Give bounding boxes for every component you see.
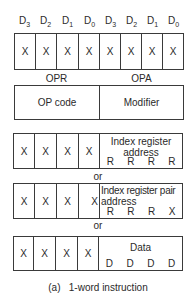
index-register-pair-format-box: X X X X Index register pair address R R … — [13, 183, 183, 219]
bit-cell: X — [14, 134, 35, 168]
bit-letter: R — [148, 206, 155, 217]
field-bits: R R R X — [100, 206, 182, 217]
bit-letter: R — [148, 156, 155, 167]
field-title: Data — [99, 242, 182, 254]
bit-label: D3 — [14, 15, 35, 28]
bit-letter: R — [127, 156, 134, 167]
bit-cell: X — [57, 134, 79, 168]
bit-letter: R — [107, 206, 114, 217]
bit-cell: X — [79, 34, 100, 69]
bit-cell: X — [100, 34, 121, 69]
bit-letter: R — [107, 156, 114, 167]
bit-cell: X — [14, 237, 34, 270]
bit-letter: D — [168, 258, 175, 269]
bit-cell: X — [142, 34, 163, 69]
bit-cell: X — [121, 34, 142, 69]
index-register-format-box: X X X X Index register address R R R R — [13, 133, 183, 169]
bit-cell: X — [15, 34, 36, 69]
figure-caption: (a) 1-word instruction — [13, 282, 183, 293]
modifier-field: Modifier — [100, 86, 183, 119]
field-bits: R R R R — [100, 156, 182, 167]
bit-letter: X — [169, 206, 176, 217]
index-register-pair-field: Index register pair address R R R X — [100, 184, 182, 218]
index-register-field: Index register address R R R R — [100, 134, 182, 168]
opr-label: OPR — [14, 73, 99, 84]
bit-cell: X — [35, 184, 57, 218]
bit-cell: X — [78, 237, 99, 270]
data-field: Data D D D D — [99, 237, 182, 270]
bit-cell: X — [36, 34, 57, 69]
bit-letter: R — [168, 156, 175, 167]
bit-cell: X — [14, 184, 35, 218]
bit-cell: X — [35, 134, 57, 168]
bit-label: D1 — [142, 15, 163, 28]
bit-letter: R — [127, 206, 134, 217]
bit-label: D2 — [35, 15, 56, 28]
bit-label: D0 — [163, 15, 184, 28]
opa-label: OPA — [99, 73, 184, 84]
bit-cell: X — [79, 134, 100, 168]
bit-label: D0 — [79, 15, 100, 28]
or-separator: or — [13, 171, 183, 182]
bit-label: D1 — [57, 15, 78, 28]
bit-cell: X — [57, 34, 79, 69]
field-bits: D D D D — [99, 258, 182, 269]
bit-cell: X — [57, 184, 79, 218]
bit-letter: D — [147, 258, 154, 269]
bit-letter: D — [127, 258, 134, 269]
bit-cell: X — [163, 34, 183, 69]
bit-row-box: X X X X X X X X — [14, 33, 184, 70]
or-separator: or — [13, 220, 183, 231]
bit-label: D3 — [100, 15, 121, 28]
bit-letter: D — [106, 258, 113, 269]
data-format-box: X X X X Data D D D D — [13, 236, 183, 271]
bit-label: D2 — [121, 15, 142, 28]
opcode-modifier-box: OP code Modifier — [14, 85, 184, 120]
bit-cell: X — [56, 237, 78, 270]
opcode-field: OP code — [15, 86, 100, 119]
bit-cell: X — [34, 237, 56, 270]
bit-cell: X — [79, 184, 100, 218]
